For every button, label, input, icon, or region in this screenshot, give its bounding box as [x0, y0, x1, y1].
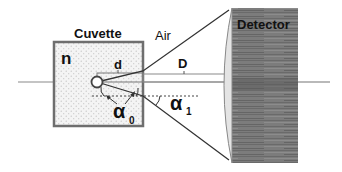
d-label: d	[114, 57, 122, 72]
refractive-index-label: n	[61, 49, 71, 68]
alpha0-label: α	[113, 100, 126, 122]
detector-label: Detector	[237, 17, 290, 32]
detector-lens	[224, 8, 232, 163]
alpha1-label: α	[170, 92, 183, 114]
optical-diagram: Cuvette n d D α 0 α 1 Air Detector	[0, 0, 342, 172]
alpha1-subscript: 1	[186, 106, 192, 117]
angle-arc-alpha1	[156, 96, 160, 105]
D-label: D	[178, 56, 187, 71]
light-source	[92, 77, 103, 88]
air-label: Air	[155, 28, 172, 43]
alpha0-subscript: 0	[129, 115, 135, 126]
D-bracket	[143, 74, 227, 82]
cuvette-label: Cuvette	[74, 26, 122, 41]
